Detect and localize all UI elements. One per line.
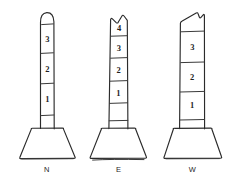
north-tick-2 [41,53,53,54]
column-east: 4 3 2 1 E [90,15,146,174]
east-segment-label-4: 4 [117,23,122,33]
north-segment-label-2: 2 [45,64,49,74]
west-tick-top [181,31,204,32]
west-column-label: W [189,165,197,174]
east-column-label: E [116,165,121,174]
column-west: 3 2 1 W [164,13,222,175]
west-base-outline [164,128,222,158]
west-tick-3 [180,91,204,92]
figure-canvas: 3 2 1 N 4 3 2 1 E [0,0,247,177]
stratigraphic-columns-figure: 3 2 1 N 4 3 2 1 E [0,0,247,177]
west-segment-label-1: 1 [190,100,194,110]
west-tick-bottom [180,120,204,121]
east-tick-3 [110,81,127,82]
north-base-outline [20,128,76,159]
north-tick-top [42,24,54,25]
east-base-bottom-accent [93,159,144,160]
east-tick-2 [111,58,128,59]
north-column-label: N [44,165,50,174]
east-tick-top [111,36,127,37]
north-tick-3 [41,83,54,84]
east-segment-label-1: 1 [116,88,120,98]
east-segment-label-3: 3 [117,43,121,53]
north-segment-label-3: 3 [45,34,49,44]
west-segment-label-3: 3 [190,42,194,52]
east-segment-label-2: 2 [116,65,120,75]
west-segment-label-2: 2 [190,72,194,82]
north-segment-label-1: 1 [45,94,49,104]
north-tick-bottom [41,115,54,116]
west-shaft-outline [180,13,205,129]
column-north: 3 2 1 N [20,13,76,175]
east-base-outline [90,128,146,158]
east-tick-4 [110,103,128,104]
west-tick-2 [181,62,204,63]
